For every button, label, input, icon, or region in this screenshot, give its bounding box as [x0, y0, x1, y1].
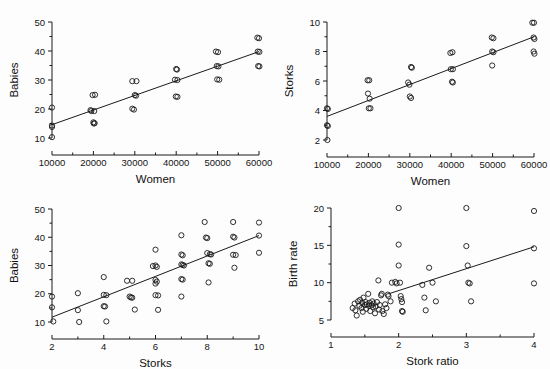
- plot-area: 1020304050100002000030000400005000060000…: [0, 0, 275, 185]
- y-axis-title: Babies: [8, 62, 20, 97]
- x-tick-label: 1: [328, 339, 333, 350]
- x-tick-label: 2: [396, 339, 401, 350]
- data-point: [464, 205, 469, 210]
- y-axis-title: Storks: [283, 64, 295, 97]
- data-point: [132, 307, 137, 312]
- y-tick-label: 40: [34, 46, 45, 57]
- data-point: [179, 294, 184, 299]
- data-points: [324, 20, 537, 142]
- x-tick-label: 60000: [521, 159, 547, 170]
- data-point: [468, 299, 473, 304]
- scatter-panel-babies-vs-women: 1020304050100002000030000400005000060000…: [0, 0, 275, 185]
- data-point: [430, 280, 435, 285]
- data-point: [256, 220, 261, 225]
- y-tick-label: 15: [313, 240, 324, 251]
- y-tick-label: 10: [309, 17, 320, 28]
- data-point: [101, 274, 106, 279]
- data-point: [427, 265, 432, 270]
- y-tick-label: 5: [319, 315, 324, 326]
- x-tick-label: 6: [153, 341, 158, 352]
- regression-line: [389, 247, 534, 294]
- x-tick-label: 30000: [122, 157, 148, 168]
- x-tick-label: 8: [205, 341, 210, 352]
- x-axis-title: Stork ratio: [406, 355, 458, 367]
- data-point: [464, 243, 469, 248]
- data-point: [399, 299, 404, 304]
- data-points: [350, 205, 537, 318]
- y-tick-label: 2: [315, 135, 320, 146]
- regression-line: [52, 52, 259, 125]
- data-point: [130, 278, 135, 283]
- data-point: [531, 246, 536, 251]
- x-tick-label: 50000: [204, 157, 230, 168]
- data-point: [232, 265, 237, 270]
- y-tick-label: 20: [34, 288, 45, 299]
- data-point: [51, 319, 56, 324]
- data-point: [366, 291, 371, 296]
- data-point: [388, 299, 393, 304]
- x-axis-title: Women: [136, 173, 175, 185]
- data-point: [131, 107, 136, 112]
- data-point: [433, 299, 438, 304]
- x-tick-label: 40000: [163, 157, 189, 168]
- y-axis-title: Birth rate: [287, 241, 299, 288]
- data-point: [531, 208, 536, 213]
- x-axis-title: Women: [411, 175, 450, 185]
- x-tick-label: 10000: [314, 159, 340, 170]
- y-tick-label: 50: [34, 17, 45, 28]
- y-axis-title: Babies: [8, 248, 20, 283]
- x-tick-label: 60000: [246, 157, 272, 168]
- x-tick-label: 20000: [355, 159, 381, 170]
- data-points: [49, 219, 261, 324]
- y-tick-label: 30: [34, 75, 45, 86]
- data-point: [408, 95, 413, 100]
- data-point: [231, 219, 236, 224]
- plot-area: 51015201234Stork ratioBirth rate: [275, 185, 550, 369]
- data-point: [423, 308, 428, 313]
- data-point: [396, 205, 401, 210]
- y-tick-label: 8: [315, 46, 320, 57]
- data-point: [153, 247, 158, 252]
- data-point: [256, 250, 261, 255]
- y-tick-label: 10: [313, 277, 324, 288]
- regression-line: [327, 37, 534, 117]
- x-tick-label: 20000: [80, 157, 106, 168]
- y-tick-label: 50: [34, 204, 45, 215]
- plot-area: 1020304050246810StorksBabies: [0, 185, 275, 369]
- data-point: [490, 63, 495, 68]
- data-point: [75, 291, 80, 296]
- x-tick-label: 10: [254, 341, 265, 352]
- x-tick-label: 3: [464, 339, 469, 350]
- y-tick-label: 20: [313, 203, 324, 214]
- data-point: [104, 319, 109, 324]
- x-tick-label: 30000: [397, 159, 423, 170]
- scatter-panel-storks-vs-women: 246810100002000030000400005000060000Wome…: [275, 0, 550, 185]
- data-point: [155, 307, 160, 312]
- data-point: [376, 278, 381, 283]
- regression-line: [52, 236, 259, 318]
- data-point: [422, 295, 427, 300]
- figure-panel-grid: 1020304050100002000030000400005000060000…: [0, 0, 550, 369]
- data-point: [396, 242, 401, 247]
- data-point: [75, 308, 80, 313]
- scatter-panel-birthrate-vs-storkratio: 51015201234Stork ratioBirth rate: [275, 185, 550, 369]
- data-point: [365, 91, 370, 96]
- y-tick-label: 20: [34, 104, 45, 115]
- y-tick-label: 10: [34, 317, 45, 328]
- data-point: [256, 233, 261, 238]
- data-point: [124, 278, 129, 283]
- x-tick-label: 2: [49, 341, 54, 352]
- y-tick-label: 10: [34, 133, 45, 144]
- x-tick-label: 4: [101, 341, 106, 352]
- data-point: [206, 280, 211, 285]
- data-point: [354, 313, 359, 318]
- data-point: [77, 319, 82, 324]
- scatter-panel-babies-vs-storks: 1020304050246810StorksBabies: [0, 185, 275, 369]
- x-axis-title: Storks: [139, 357, 172, 369]
- x-tick-label: 40000: [438, 159, 464, 170]
- data-point: [179, 233, 184, 238]
- data-points: [49, 35, 262, 140]
- x-tick-label: 4: [531, 339, 536, 350]
- y-tick-label: 4: [315, 105, 320, 116]
- x-tick-label: 50000: [479, 159, 505, 170]
